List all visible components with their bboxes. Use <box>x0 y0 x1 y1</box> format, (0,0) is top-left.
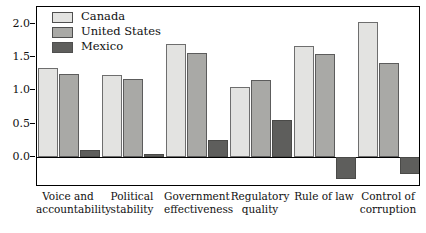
x-axis-labels: Voice and accountabilityPolitical stabil… <box>36 190 420 232</box>
bar <box>315 54 335 157</box>
bar <box>379 63 399 157</box>
y-axis-tick-mark <box>30 89 35 90</box>
x-axis-category-label: Voice and accountability <box>36 190 100 216</box>
y-axis-tick-mark <box>30 56 35 57</box>
bar <box>59 74 79 157</box>
bar <box>166 44 186 157</box>
y-axis-tick-label: 0.5 <box>13 117 31 128</box>
legend-item-canada: Canada <box>52 11 161 23</box>
y-axis-tick-label: 2.0 <box>13 17 31 28</box>
legend-item-united-states: United States <box>52 26 161 38</box>
bar <box>358 22 378 157</box>
y-axis-tick-mark <box>30 156 35 157</box>
legend-swatch-mexico <box>52 42 73 53</box>
y-axis-tick-label: 1.0 <box>13 84 31 95</box>
x-axis-category-label: Control of corruption <box>356 190 420 216</box>
x-axis-category-label: Regulatory quality <box>228 190 292 216</box>
legend-swatch-united-states <box>52 27 73 38</box>
zero-baseline <box>37 157 419 158</box>
x-axis-category-label: Political stability <box>100 190 164 216</box>
y-axis-tick-mark <box>30 23 35 24</box>
bar-chart-figure: 0.00.51.01.52.0 Canada United States Mex… <box>0 0 426 233</box>
bar <box>102 75 122 157</box>
chart-legend: Canada United States Mexico <box>52 11 161 53</box>
bar <box>251 80 271 157</box>
legend-item-mexico: Mexico <box>52 41 161 53</box>
bar <box>80 150 100 157</box>
y-axis-tick-label: 0.0 <box>13 151 31 162</box>
legend-swatch-canada <box>52 12 73 23</box>
x-axis-category-label: Government effectiveness <box>164 190 228 216</box>
bar <box>208 140 228 157</box>
legend-label-mexico: Mexico <box>81 41 123 53</box>
legend-label-canada: Canada <box>81 11 125 23</box>
bar <box>272 120 292 157</box>
y-axis: 0.00.51.01.52.0 <box>0 0 30 233</box>
bar <box>187 53 207 157</box>
bar <box>336 157 356 179</box>
bar <box>230 87 250 157</box>
bar <box>144 154 164 157</box>
bar <box>400 157 419 174</box>
y-axis-tick-label: 1.5 <box>13 51 31 62</box>
bar <box>123 79 143 157</box>
bar <box>294 46 314 157</box>
bar <box>38 68 58 157</box>
x-axis-category-label: Rule of law <box>292 190 356 203</box>
legend-label-united-states: United States <box>81 26 161 38</box>
y-axis-tick-mark <box>30 123 35 124</box>
